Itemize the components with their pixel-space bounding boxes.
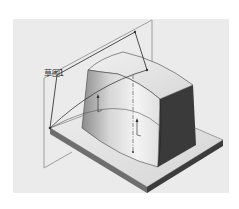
sketch-label[interactable]: 草图1 — [44, 69, 64, 78]
model-view[interactable] — [0, 0, 239, 209]
